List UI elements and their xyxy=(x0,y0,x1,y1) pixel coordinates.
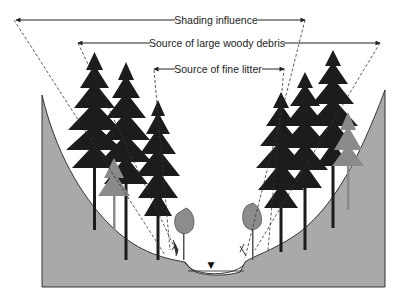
shading-influence-label: Shading influence xyxy=(174,14,258,26)
water-surface-marker: ▼ xyxy=(208,260,215,270)
riparian-diagram: ▼ xyxy=(0,0,409,297)
large-woody-debris-label: Source of large woody debris xyxy=(149,37,285,49)
large-woody-debris-arrow: Source of large woody debris xyxy=(78,37,380,49)
fine-litter-label: Source of fine litter xyxy=(174,63,262,75)
fine-litter-arrow: Source of fine litter xyxy=(154,63,284,75)
left-shrub xyxy=(175,208,194,234)
shading-influence-arrow: Shading influence xyxy=(16,14,305,26)
right-shrub xyxy=(243,203,262,230)
